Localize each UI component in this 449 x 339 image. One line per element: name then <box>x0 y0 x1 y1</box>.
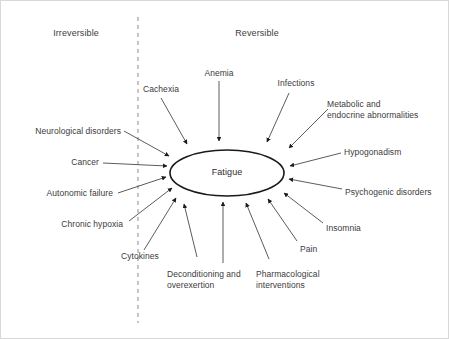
cause-label-deconditioning: Deconditioning and overexertion <box>167 269 253 291</box>
arrow-pain <box>268 199 297 241</box>
arrow-metabolic-endocrine <box>289 109 328 148</box>
cause-label-pharmacological: Pharmacological interventions <box>256 269 334 291</box>
cause-label-anemia: Anemia <box>191 68 247 79</box>
cause-label-cachexia: Cachexia <box>131 84 191 95</box>
cause-label-insomnia: Insomnia <box>326 223 386 234</box>
cause-label-psychogenic-disorders: Psychogenic disorders <box>345 187 449 198</box>
cause-label-cancer: Cancer <box>31 157 99 168</box>
arrow-cachexia <box>161 98 187 144</box>
figure-container: Irreversible Reversible Fatigue Cachexia… <box>0 0 449 339</box>
arrow-infections <box>267 93 289 142</box>
arrow-autonomic-failure <box>118 177 166 193</box>
arrow-neurological-disorders <box>124 131 169 156</box>
arrow-hypogonadism <box>290 153 341 166</box>
cause-label-chronic-hypoxia: Chronic hypoxia <box>27 219 123 230</box>
arrow-deconditioning <box>184 204 197 257</box>
cause-label-pain: Pain <box>300 244 340 255</box>
cause-label-hypogonadism: Hypogonadism <box>344 147 444 158</box>
cause-label-metabolic-endocrine: Metabolic and endocrine abnormalities <box>327 99 445 121</box>
header-irreversible: Irreversible <box>41 28 111 38</box>
arrow-cancer <box>103 163 167 166</box>
fatigue-node-label: Fatigue <box>177 167 277 177</box>
header-reversible: Reversible <box>222 28 292 38</box>
arrow-psychogenic-disorders <box>289 179 342 189</box>
arrow-chronic-hypoxia <box>129 188 172 221</box>
cause-label-infections: Infections <box>265 78 327 89</box>
arrow-insomnia <box>284 193 323 223</box>
cause-label-neurological-disorders: Neurological disorders <box>11 126 121 137</box>
arrow-pharmacological <box>246 203 269 259</box>
cause-label-autonomic-failure: Autonomic failure <box>15 188 113 199</box>
cause-label-cytokines: Cytokines <box>109 251 171 262</box>
